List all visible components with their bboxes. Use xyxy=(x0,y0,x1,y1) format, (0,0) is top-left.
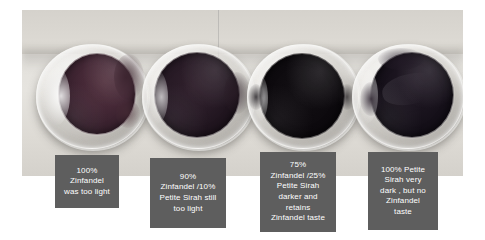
glass-4-reflection-left xyxy=(360,82,382,116)
glass-1-highlight xyxy=(40,66,70,126)
glass-1-reflection-lower xyxy=(116,100,140,128)
caption-3-line-4: darker and xyxy=(278,192,317,203)
caption-3-line-2: Zinfandel /25% xyxy=(271,171,326,182)
glass-2-highlight xyxy=(146,70,168,124)
caption-4-line-3: dark , but no xyxy=(380,186,426,197)
caption-3-line-5: retains xyxy=(286,203,311,214)
screenshot-root: 100% Zinfandel was too light 90% Zinfand… xyxy=(0,0,485,240)
wine-glass-3 xyxy=(247,44,357,147)
caption-2-line-3: Petite Sirah still xyxy=(160,193,217,204)
caption-1-line-2: Zinfandel xyxy=(70,176,104,187)
caption-3-line-6: Zinfandel taste xyxy=(271,213,325,224)
caption-2-line-4: too light xyxy=(174,204,203,215)
caption-box-3: 75% Zinfandel /25% Petite Sirah darker a… xyxy=(260,152,336,232)
glass-3-wine-sheen xyxy=(260,54,344,138)
caption-box-1: 100% Zinfandel was too light xyxy=(55,155,119,208)
wine-glass-4 xyxy=(352,44,462,147)
glass-4-reflection-top xyxy=(378,48,424,70)
caption-2-line-1: 90% xyxy=(180,172,196,183)
caption-box-4: 100% Petite Sirah very dark , but no Zin… xyxy=(368,152,438,230)
caption-1-line-3: was too light xyxy=(64,187,110,198)
caption-3-line-3: Petite Sirah xyxy=(277,181,320,192)
wine-glass-1 xyxy=(36,44,146,147)
caption-4-line-1: 100% Petite xyxy=(381,165,425,176)
glass-3-rim-dark-left xyxy=(248,84,264,110)
glass-3-wine xyxy=(259,53,345,139)
caption-1-line-1: 100% xyxy=(77,166,98,177)
caption-3-line-1: 75% xyxy=(290,160,306,171)
glass-1-reflection-right xyxy=(114,54,144,100)
caption-box-2: 90% Zinfandel /10% Petite Sirah still to… xyxy=(150,158,226,228)
caption-4-line-4: Zinfandel xyxy=(386,196,420,207)
caption-2-line-2: Zinfandel /10% xyxy=(161,182,216,193)
caption-4-line-5: taste xyxy=(394,207,412,218)
caption-4-line-2: Sirah very xyxy=(384,175,421,186)
wine-glass-2 xyxy=(142,44,252,147)
